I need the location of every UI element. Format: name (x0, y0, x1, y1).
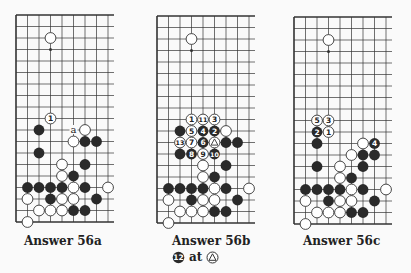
move-number: 4 (372, 139, 377, 148)
white-stone (45, 33, 56, 44)
white-stone (186, 206, 197, 217)
black-stone (312, 184, 323, 195)
black-stone (312, 138, 323, 149)
white-stone (80, 125, 91, 136)
white-stone (57, 194, 68, 205)
white-stone (68, 194, 79, 205)
white-stone (358, 138, 369, 149)
white-stone (335, 207, 346, 218)
caption-56a: Answer 56a (24, 234, 102, 248)
white-stone (163, 195, 174, 206)
white-stone (346, 150, 357, 161)
white-stone (186, 34, 197, 45)
black-stone (209, 172, 220, 183)
move-number: 13 (176, 139, 185, 146)
black-stone (323, 184, 334, 195)
move-number: 6 (200, 138, 205, 147)
white-stone (346, 184, 357, 195)
white-stone (68, 182, 79, 193)
black-stone (80, 205, 91, 216)
black-stone (232, 137, 243, 148)
white-stone (22, 217, 33, 228)
black-stone (323, 196, 334, 207)
triangle-stone-icon (206, 251, 219, 264)
black-stone (358, 161, 369, 172)
black-stone (34, 125, 45, 136)
black-stone (221, 206, 232, 217)
move-number: 11 (199, 116, 208, 123)
white-stone (335, 161, 346, 172)
move-number: 5 (314, 116, 319, 125)
black-stone (221, 160, 232, 171)
white-stone (68, 136, 79, 147)
black-stone (57, 182, 68, 193)
white-stone (300, 196, 311, 207)
move-number: 1 (48, 114, 53, 123)
white-stone (45, 205, 56, 216)
black-stone (80, 182, 91, 193)
black-stone (369, 196, 380, 207)
move-number: 5 (189, 127, 194, 136)
move-number: 1 (189, 115, 194, 124)
black-stone (186, 183, 197, 194)
black-stone (80, 136, 91, 147)
go-board-56c: 53214 (287, 10, 401, 231)
move-number: 7 (189, 138, 194, 147)
white-stone (34, 205, 45, 216)
white-stone (335, 173, 346, 184)
move-number: 2 (314, 128, 319, 137)
black-stone (358, 207, 369, 218)
white-stone (335, 196, 346, 207)
black-stone (209, 206, 220, 217)
white-stone (103, 182, 114, 193)
white-stone (175, 206, 186, 217)
white-stone (198, 160, 209, 171)
white-stone (57, 171, 68, 182)
move-number: 8 (189, 150, 194, 159)
black-stone (300, 184, 311, 195)
black-stone (91, 194, 102, 205)
move-number: 4 (200, 127, 205, 136)
black-stone (358, 184, 369, 195)
black-stone (34, 148, 45, 159)
white-stone (244, 183, 255, 194)
black-stone (175, 126, 186, 137)
black-stone (34, 182, 45, 193)
note-text: at (189, 250, 202, 264)
white-stone (57, 159, 68, 170)
white-stone (221, 126, 232, 137)
point-label-a: a (71, 124, 77, 135)
white-stone (323, 207, 334, 218)
black-stone (312, 161, 323, 172)
black-stone (346, 173, 357, 184)
white-stone (209, 195, 220, 206)
white-stone (312, 207, 323, 218)
black-stone (186, 195, 197, 206)
black-stone (369, 150, 380, 161)
white-stone (323, 35, 334, 46)
go-board-56a: 1a (9, 8, 123, 229)
black-stone (358, 150, 369, 161)
white-stone (57, 205, 68, 216)
move-note-56b: 12 at (172, 250, 219, 264)
black-stone (221, 183, 232, 194)
black-stone (80, 159, 91, 170)
black-stone (232, 195, 243, 206)
go-board-56b: 111354213768910 (150, 9, 264, 230)
caption-56b: Answer 56b (172, 234, 250, 248)
black-stone (175, 183, 186, 194)
black-stone (221, 137, 232, 148)
caption-56c: Answer 56c (303, 234, 380, 248)
black-stone (346, 207, 357, 218)
white-stone (300, 219, 311, 230)
move-number: 3 (326, 116, 331, 125)
black-stone (91, 136, 102, 147)
white-stone (381, 184, 392, 195)
move-number: 10 (210, 151, 219, 158)
white-stone (198, 172, 209, 183)
svg-text:12: 12 (173, 253, 183, 262)
move-number: 3 (212, 115, 217, 124)
black-stone (45, 194, 56, 205)
black-stone (22, 182, 33, 193)
white-stone (209, 183, 220, 194)
